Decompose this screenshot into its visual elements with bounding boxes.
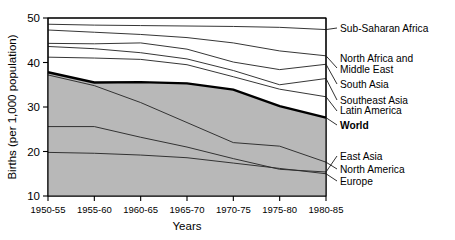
series-label-world: World xyxy=(340,120,369,131)
y-tick-label-40: 40 xyxy=(27,57,40,69)
series-label-europe: Europe xyxy=(340,176,373,187)
series-label-latin-america: Latin America xyxy=(340,105,402,116)
x-tick-label-1955-60: 1955-60 xyxy=(77,204,112,215)
y-tick-label-10: 10 xyxy=(27,190,40,202)
series-label-east-asia: East Asia xyxy=(340,151,383,162)
x-tick-label-1960-65: 1960-65 xyxy=(123,204,158,215)
y-tick-label-50: 50 xyxy=(27,12,40,24)
y-axis-title: Births (per 1,000 population) xyxy=(6,34,18,179)
x-axis-title: Years xyxy=(173,220,202,232)
x-tick-label-1950-55: 1950-55 xyxy=(31,204,66,215)
series-label-north-africa-line2: Middle East xyxy=(340,64,393,75)
series-label-north-africa-line1: North Africa and xyxy=(340,53,413,64)
x-tick-labels: 1950-551955-601960-651965-701970-751975-… xyxy=(31,204,344,215)
series-label-sub-saharan-africa: Sub-Saharan Africa xyxy=(340,23,429,34)
x-tick-label-1970-75: 1970-75 xyxy=(216,204,251,215)
y-tick-label-20: 20 xyxy=(27,146,40,158)
x-tick-label-1975-80: 1975-80 xyxy=(262,204,297,215)
series-label-north-america: North America xyxy=(340,164,405,175)
chart-figure: 5040302010 1950-551955-601960-651965-701… xyxy=(0,0,455,240)
x-tick-label-1965-70: 1965-70 xyxy=(170,204,205,215)
x-tick-label-1980-85: 1980-85 xyxy=(309,204,344,215)
y-tick-label-30: 30 xyxy=(27,101,40,113)
series-label-south-asia: South Asia xyxy=(340,79,389,90)
